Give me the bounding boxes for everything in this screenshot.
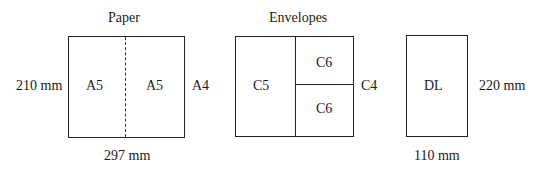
paper-height-label: 210 mm [16,78,62,94]
dl-height-label: 220 mm [479,78,525,94]
c5-label: C5 [253,78,269,94]
c6-top-label: C6 [316,55,332,71]
dl-width-label: 110 mm [414,148,460,164]
fold-line [125,37,126,137]
paper-width-label: 297 mm [104,148,150,164]
c4-label: C4 [361,78,377,94]
paper-title: Paper [108,10,140,26]
c5-divider [295,36,296,137]
c6-bottom-label: C6 [316,101,332,117]
dl-label: DL [424,78,443,94]
a5-left-label: A5 [86,78,103,94]
envelopes-title: Envelopes [269,10,327,26]
c6-divider [295,84,354,85]
a4-label: A4 [192,78,209,94]
a5-right-label: A5 [146,78,163,94]
